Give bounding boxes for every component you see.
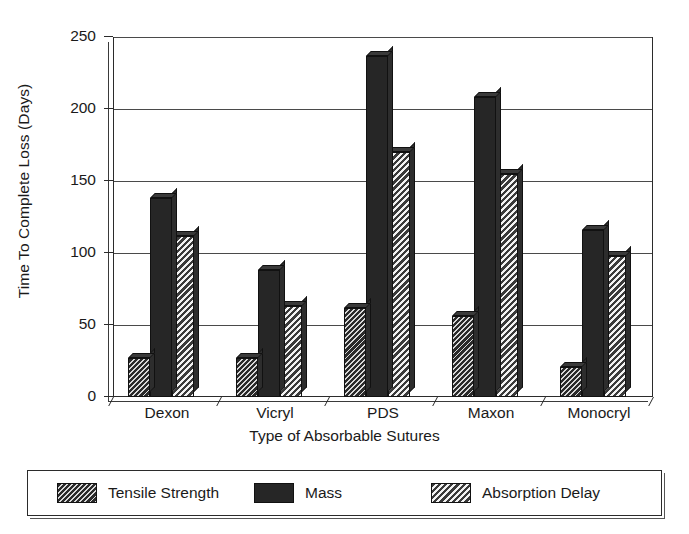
bar-pds-tensile-strength	[344, 308, 366, 397]
x-category-label-vicryl: Vicryl	[221, 404, 329, 422]
bar-front-face	[344, 308, 366, 397]
bar-side-face	[194, 226, 199, 392]
legend-swatch-mass-icon	[254, 483, 294, 503]
bar-side-face	[626, 246, 631, 392]
legend-item-absorption-delay: Absorption Delay	[431, 482, 600, 504]
legend-label-tensile-strength: Tensile Strength	[108, 484, 219, 502]
bar-front-face	[560, 367, 582, 397]
y-tick-label-150: 150	[48, 171, 96, 189]
y-tick-label-100: 100	[48, 243, 96, 261]
bar-side-face	[172, 188, 177, 392]
bar-side-face	[604, 220, 609, 392]
bar-group-monocryl	[560, 37, 626, 397]
y-tick-label-200: 200	[48, 99, 96, 117]
chart-legend: Tensile Strength Mass Absorption Delay	[27, 470, 662, 516]
bar-maxon-tensile-strength	[452, 316, 474, 397]
y-tick-label-50: 50	[48, 315, 96, 333]
x-category-label-pds: PDS	[329, 404, 437, 422]
y-tick-label-0: 0	[48, 387, 96, 405]
x-category-label-maxon: Maxon	[437, 404, 545, 422]
x-category-label-monocryl: Monocryl	[545, 404, 653, 422]
legend-swatch-tensile-strength-icon	[57, 483, 97, 503]
bar-group-dexon	[128, 37, 194, 397]
bar-side-face	[410, 142, 415, 392]
legend-swatch-absorption-delay-icon	[431, 483, 471, 503]
bar-group-vicryl	[236, 37, 302, 397]
bar-side-face	[302, 296, 307, 392]
y-tick-mark-150	[104, 180, 113, 181]
y-tick-mark-250	[104, 36, 113, 37]
bar-front-face	[236, 358, 258, 397]
y-tick-mark-200	[104, 108, 113, 109]
y-axis-title: Time To Complete Loss (Days)	[15, 26, 33, 356]
bar-group-maxon	[452, 37, 518, 397]
bar-front-face	[452, 316, 474, 397]
y-tick-mark-100	[104, 252, 113, 253]
bar-chart: Time To Complete Loss (Days) 250 200 150…	[0, 0, 689, 455]
bar-group-pds	[344, 37, 410, 397]
x-axis-title: Type of Absorbable Sutures	[0, 427, 689, 445]
bar-series-container	[113, 37, 653, 397]
bar-side-face	[388, 46, 393, 392]
chart-screenshot: Time To Complete Loss (Days) 250 200 150…	[0, 0, 689, 534]
bar-side-face	[496, 87, 501, 392]
bar-side-face	[366, 298, 371, 392]
x-category-label-dexon: Dexon	[113, 404, 221, 422]
bar-side-face	[518, 164, 523, 392]
y-tick-mark-50	[104, 324, 113, 325]
bar-dexon-tensile-strength	[128, 358, 150, 397]
legend-label-mass: Mass	[305, 484, 342, 502]
y-tick-label-250: 250	[48, 27, 96, 45]
legend-item-tensile-strength: Tensile Strength	[57, 482, 219, 504]
bar-side-face	[474, 306, 479, 392]
bar-monocryl-tensile-strength	[560, 367, 582, 397]
bar-side-face	[280, 260, 285, 392]
bar-vicryl-tensile-strength	[236, 358, 258, 397]
legend-label-absorption-delay: Absorption Delay	[482, 484, 600, 502]
legend-item-mass: Mass	[254, 482, 342, 504]
bar-front-face	[128, 358, 150, 397]
